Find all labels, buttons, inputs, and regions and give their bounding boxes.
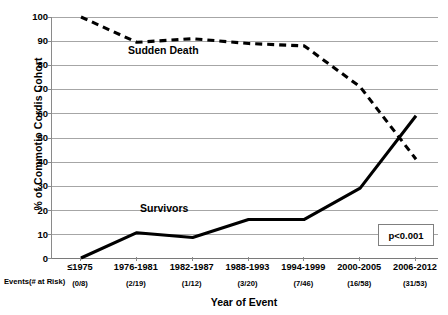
y-tickmark bbox=[48, 258, 52, 259]
y-tick-label: 50 bbox=[14, 133, 48, 143]
x-tickmark bbox=[415, 257, 416, 261]
y-tick-label: 40 bbox=[14, 157, 48, 167]
y-tick-label: 80 bbox=[14, 60, 48, 70]
y-tick-label: 10 bbox=[14, 230, 48, 240]
sudden-death-series-label: Sudden Death bbox=[128, 44, 199, 56]
y-tick-label: 20 bbox=[14, 206, 48, 216]
sudden-death-line bbox=[81, 17, 416, 159]
x-axis-category-group: 2006-2012(31/53) bbox=[380, 261, 448, 290]
survivors-line bbox=[81, 116, 416, 258]
x-tickmark bbox=[192, 257, 193, 261]
y-axis-tick-labels: 100 90 80 70 60 50 40 30 20 10 0 bbox=[8, 0, 48, 315]
events-at-risk-value: (31/53) bbox=[380, 277, 448, 290]
x-tickmark bbox=[303, 257, 304, 261]
events-at-risk-legend: Events(# at Risk) bbox=[4, 277, 65, 286]
x-axis-title: Year of Event bbox=[51, 296, 437, 308]
x-axis-category-label: 2006-2012 bbox=[380, 261, 448, 274]
x-tickmark bbox=[248, 257, 249, 261]
x-tickmark bbox=[80, 257, 81, 261]
y-tick-label: 90 bbox=[14, 36, 48, 46]
commotio-cordis-survival-chart: % of Commotio Cordis Cohort 100 90 80 70… bbox=[0, 0, 448, 315]
x-axis-labels: ≤1975(0/8)1976-1981(2/19)1982-1987(1/12)… bbox=[51, 261, 437, 301]
x-tickmark bbox=[359, 257, 360, 261]
p-value-box: p<0.001 bbox=[378, 224, 434, 246]
x-axis-line bbox=[52, 258, 438, 259]
y-tick-label: 0 bbox=[14, 254, 48, 264]
series-canvas bbox=[52, 17, 438, 258]
y-tick-label: 100 bbox=[14, 12, 48, 22]
plot-area bbox=[51, 17, 438, 258]
y-tick-label: 30 bbox=[14, 181, 48, 191]
x-tickmark bbox=[136, 257, 137, 261]
survivors-series-label: Survivors bbox=[140, 202, 188, 214]
y-tick-label: 70 bbox=[14, 84, 48, 94]
y-tick-label: 60 bbox=[14, 109, 48, 119]
